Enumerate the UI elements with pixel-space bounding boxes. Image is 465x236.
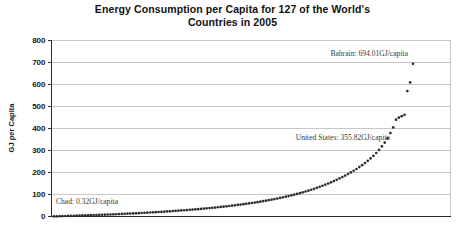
data-point xyxy=(253,201,256,204)
data-point xyxy=(338,177,341,180)
data-point xyxy=(163,210,166,213)
data-point xyxy=(202,207,205,210)
data-point xyxy=(106,213,109,216)
data-point xyxy=(398,116,401,119)
data-point xyxy=(191,208,194,211)
data-point xyxy=(89,214,92,217)
data-point xyxy=(242,203,245,206)
data-point xyxy=(171,210,174,213)
data-point xyxy=(364,162,367,165)
data-point xyxy=(194,208,197,211)
data-point xyxy=(279,197,282,200)
data-point xyxy=(366,159,369,162)
data-point xyxy=(200,208,203,211)
data-point xyxy=(92,214,95,217)
data-point xyxy=(115,213,118,216)
data-point xyxy=(296,193,299,196)
data-point xyxy=(355,168,358,171)
data-point xyxy=(112,213,115,216)
data-point xyxy=(327,182,330,185)
data-point xyxy=(149,211,152,214)
data-point xyxy=(409,81,412,84)
y-axis-tick-labels: 8007006005004003002001000 xyxy=(32,36,46,221)
data-point xyxy=(310,188,313,191)
data-point xyxy=(293,193,296,196)
data-point xyxy=(316,186,319,189)
data-point xyxy=(344,174,347,177)
data-point xyxy=(61,215,64,218)
y-axis-line xyxy=(52,40,451,217)
annotation-chad: Chad: 0.32GJ/capita xyxy=(56,197,119,206)
data-point xyxy=(273,198,276,201)
data-point xyxy=(378,149,381,152)
data-point xyxy=(205,207,208,210)
data-point xyxy=(259,200,262,203)
data-point xyxy=(87,214,90,217)
data-point xyxy=(228,205,231,208)
data-point xyxy=(358,166,361,169)
y-axis-title-text: GJ per Capita xyxy=(7,103,16,153)
data-point xyxy=(234,204,237,207)
data-point xyxy=(101,213,104,216)
y-tick-label-0: 0 xyxy=(41,212,46,221)
chart-annotations: Bahrain: 694.01GJ/capitaUnited States: 3… xyxy=(56,49,409,206)
chart-title-line-2: Countries in 2005 xyxy=(0,16,465,29)
data-point xyxy=(321,184,324,187)
chart-title: Energy Consumption per Capita for 127 of… xyxy=(0,3,465,29)
data-point xyxy=(304,190,307,193)
data-point xyxy=(214,206,217,209)
data-point xyxy=(123,212,126,215)
data-point xyxy=(58,215,61,218)
data-point xyxy=(177,209,180,212)
data-point xyxy=(53,215,56,218)
data-point xyxy=(120,213,123,216)
data-point xyxy=(146,211,149,214)
y-tick-label-100: 100 xyxy=(32,190,46,199)
data-point xyxy=(262,200,265,203)
data-point xyxy=(406,90,409,93)
data-point xyxy=(290,194,293,197)
y-tick-label-600: 600 xyxy=(32,80,46,89)
data-point xyxy=(72,214,75,217)
data-point xyxy=(98,214,101,217)
data-point xyxy=(135,212,138,215)
y-tick-label-500: 500 xyxy=(32,102,46,111)
annotation-united-states: United States: 355.82GJ/capita xyxy=(296,133,391,142)
data-point xyxy=(330,181,333,184)
data-point xyxy=(118,213,121,216)
data-point xyxy=(284,195,287,198)
data-point xyxy=(256,201,259,204)
data-point xyxy=(287,195,290,198)
data-point xyxy=(313,187,316,190)
data-point xyxy=(301,191,304,194)
data-point xyxy=(180,209,183,212)
data-point xyxy=(412,62,415,65)
data-point xyxy=(160,210,163,213)
y-tick-label-700: 700 xyxy=(32,58,46,67)
data-point xyxy=(55,215,58,218)
data-point xyxy=(154,211,157,214)
data-point xyxy=(349,171,352,174)
data-point xyxy=(403,114,406,117)
data-point xyxy=(276,197,279,200)
data-point xyxy=(265,199,268,202)
data-point xyxy=(381,145,384,148)
data-point xyxy=(152,211,155,214)
data-point xyxy=(217,206,220,209)
data-point xyxy=(248,202,251,205)
gridlines xyxy=(52,41,451,195)
energy-consumption-chart: Energy Consumption per Capita for 127 of… xyxy=(0,0,465,236)
data-point xyxy=(333,180,336,183)
data-point xyxy=(132,212,135,215)
data-point xyxy=(140,212,143,215)
y-tick-label-800: 800 xyxy=(32,36,46,45)
chart-plot-area: 8007006005004003002001000 Bahrain: 694.0… xyxy=(0,0,465,236)
data-point xyxy=(318,185,321,188)
data-point xyxy=(95,214,98,217)
data-point xyxy=(78,214,81,217)
data-point xyxy=(352,169,355,172)
data-point xyxy=(84,214,87,217)
data-point xyxy=(211,206,214,209)
y-tick-label-300: 300 xyxy=(32,146,46,155)
data-point xyxy=(299,192,302,195)
